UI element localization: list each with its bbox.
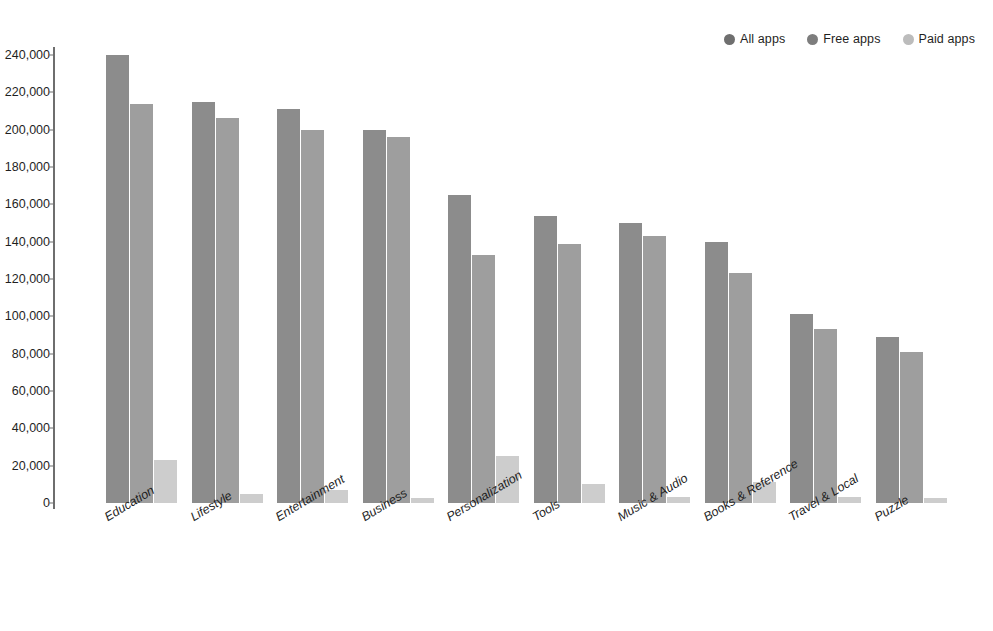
x-axis-label: Books & Reference xyxy=(701,457,801,524)
x-axis-label: Entertainment xyxy=(273,472,347,524)
x-axis-label: Tools xyxy=(530,497,562,524)
x-axis-label: Education xyxy=(102,483,157,524)
x-axis-label: Personalization xyxy=(444,468,524,524)
x-axis-category-labels: EducationLifestyleEntertainmentBusinessP… xyxy=(0,0,993,631)
x-axis-label: Puzzle xyxy=(872,493,911,524)
x-axis-label: Lifestyle xyxy=(188,488,235,524)
x-axis-label: Travel & Local xyxy=(786,471,861,524)
x-axis-label: Music & Audio xyxy=(615,471,690,524)
bar-chart: 020,00040,00060,00080,000100,000120,0001… xyxy=(0,0,993,631)
x-axis-label: Business xyxy=(359,486,410,524)
